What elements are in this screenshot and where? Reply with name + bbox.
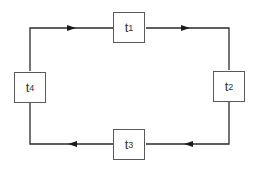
arrow-right-icon [67, 25, 76, 31]
arrow-right-icon [181, 25, 190, 31]
node-label-sub: 3 [128, 140, 133, 150]
node-t2: t2 [213, 71, 245, 102]
node-label-sub: 2 [228, 82, 233, 92]
arrow-left-icon [68, 141, 77, 147]
node-t3: t3 [113, 129, 145, 160]
node-label-sub: 1 [128, 23, 133, 33]
edge-t2-t3 [146, 102, 229, 144]
node-t1: t1 [113, 12, 145, 43]
edge-t3-t4 [30, 103, 113, 144]
arrow-left-icon [184, 141, 193, 147]
edge-t1-t2 [146, 28, 229, 70]
node-label-sub: 4 [29, 83, 34, 93]
node-t4: t4 [14, 72, 46, 103]
edge-t4-t1 [30, 28, 113, 71]
